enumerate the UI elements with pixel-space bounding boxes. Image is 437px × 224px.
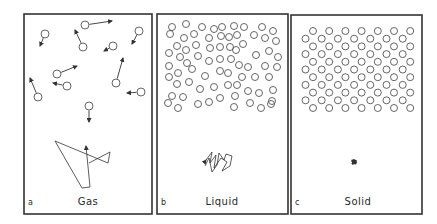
liquid-molecule bbox=[184, 60, 191, 67]
solid-molecule bbox=[391, 28, 398, 35]
liquid-molecule bbox=[226, 34, 233, 41]
solid-molecule bbox=[310, 74, 317, 81]
liquid-molecule bbox=[180, 94, 187, 101]
solid-molecule bbox=[383, 81, 390, 88]
velocity-arrow-icon bbox=[117, 58, 123, 79]
solid-molecule bbox=[318, 97, 325, 104]
panel-gas-frame bbox=[24, 14, 152, 214]
liquid-molecule bbox=[177, 54, 184, 61]
liquid-molecule bbox=[231, 23, 238, 30]
solid-molecule bbox=[342, 43, 349, 50]
solid-molecule bbox=[399, 66, 406, 73]
liquid-molecule bbox=[233, 47, 240, 54]
solid-molecule bbox=[358, 58, 365, 65]
solid-molecule bbox=[383, 35, 390, 42]
liquid-molecule bbox=[183, 21, 190, 28]
solid-molecule bbox=[351, 97, 358, 104]
blob-fragment bbox=[353, 159, 355, 161]
solid-molecule bbox=[374, 74, 381, 81]
liquid-molecule bbox=[195, 101, 202, 108]
solid-molecule bbox=[302, 81, 309, 88]
liquid-molecule bbox=[266, 48, 273, 55]
panel-liquid-letter: b bbox=[161, 198, 166, 207]
velocity-arrow-icon bbox=[104, 48, 109, 51]
solid-molecule bbox=[391, 74, 398, 81]
blob-fragment bbox=[352, 162, 354, 164]
gas-molecules bbox=[30, 21, 145, 122]
solid-molecule bbox=[326, 43, 333, 50]
solid-molecule bbox=[326, 105, 333, 112]
solid-lattice bbox=[302, 28, 414, 112]
solid-molecule bbox=[399, 51, 406, 58]
solid-molecule bbox=[334, 66, 341, 73]
liquid-molecule bbox=[218, 33, 225, 40]
gas-molecule bbox=[112, 79, 120, 87]
gas-molecule bbox=[137, 88, 145, 96]
liquid-molecule bbox=[270, 28, 277, 35]
liquid-molecule bbox=[236, 62, 243, 69]
solid-molecule bbox=[391, 89, 398, 96]
solid-molecule bbox=[310, 89, 317, 96]
gas-trajectory-path bbox=[55, 141, 110, 188]
velocity-arrow-icon bbox=[89, 21, 112, 24]
gas-molecule bbox=[81, 21, 89, 29]
liquid-molecule bbox=[166, 74, 173, 81]
liquid-molecule bbox=[245, 88, 252, 95]
panel-liquid-title: Liquid bbox=[205, 196, 238, 207]
liquid-molecule bbox=[207, 45, 214, 52]
liquid-molecule bbox=[240, 41, 247, 48]
solid-molecule bbox=[351, 66, 358, 73]
solid-molecule bbox=[358, 105, 365, 112]
solid-molecule bbox=[358, 28, 365, 35]
panel-gas-title: Gas bbox=[78, 196, 99, 207]
solid-molecule bbox=[302, 35, 309, 42]
solid-molecule bbox=[326, 28, 333, 35]
liquid-molecule bbox=[211, 26, 218, 33]
liquid-molecule bbox=[252, 74, 259, 81]
solid-molecule bbox=[374, 43, 381, 50]
solid-molecule bbox=[334, 97, 341, 104]
solid-molecule bbox=[407, 58, 414, 65]
solid-molecule bbox=[367, 66, 374, 73]
liquid-molecule bbox=[270, 87, 277, 94]
gas-molecule bbox=[41, 30, 49, 38]
panel-solid-title: Solid bbox=[345, 196, 372, 207]
solid-molecule bbox=[334, 81, 341, 88]
liquid-molecule bbox=[234, 32, 241, 39]
liquid-molecule bbox=[225, 82, 232, 89]
liquid-molecule bbox=[202, 73, 209, 80]
liquid-molecule bbox=[253, 52, 260, 59]
panel-solid-letter: c bbox=[295, 198, 299, 207]
liquid-molecule bbox=[193, 42, 200, 49]
panel-liquid: b Liquid bbox=[157, 14, 288, 214]
liquid-molecule bbox=[266, 74, 273, 81]
solid-molecule bbox=[383, 66, 390, 73]
liquid-molecule bbox=[186, 79, 193, 86]
velocity-arrow-icon bbox=[61, 66, 77, 72]
gas-molecule bbox=[63, 82, 71, 90]
solid-molecule bbox=[383, 51, 390, 58]
gas-molecule bbox=[109, 42, 117, 50]
liquid-molecule bbox=[262, 63, 269, 70]
liquid-molecule bbox=[169, 93, 176, 100]
solid-molecule bbox=[318, 51, 325, 58]
solid-molecule bbox=[374, 58, 381, 65]
solid-molecule bbox=[391, 58, 398, 65]
liquid-molecule bbox=[169, 24, 176, 31]
solid-molecule bbox=[342, 89, 349, 96]
solid-molecule bbox=[326, 74, 333, 81]
velocity-arrow-icon bbox=[40, 38, 43, 46]
solid-molecule bbox=[374, 28, 381, 35]
liquid-molecule bbox=[275, 54, 282, 61]
velocity-arrow-icon bbox=[132, 35, 137, 44]
liquid-molecule bbox=[234, 82, 241, 89]
liquid-molecule bbox=[197, 86, 204, 93]
liquid-molecule bbox=[175, 70, 182, 77]
solid-molecule bbox=[367, 35, 374, 42]
liquid-molecule bbox=[195, 53, 202, 60]
liquid-molecule bbox=[165, 100, 172, 107]
liquid-molecule bbox=[175, 105, 182, 112]
solid-molecule bbox=[342, 28, 349, 35]
liquid-molecule bbox=[217, 95, 224, 102]
solid-molecule bbox=[302, 51, 309, 58]
